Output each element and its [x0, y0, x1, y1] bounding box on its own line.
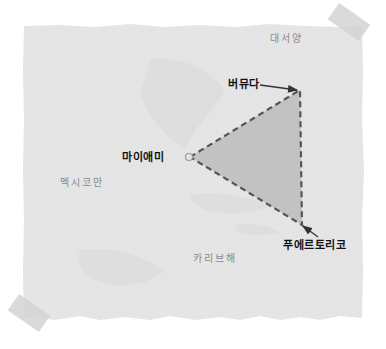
atlantic-ocean-label: 대서양: [270, 34, 303, 44]
bermuda-label: 버뮤다: [228, 79, 260, 90]
bermuda-triangle-map: 대서양 버뮤다 마이애미 멕시코만 푸에르토리코 카리브해: [0, 0, 386, 349]
map-graphic: [0, 0, 386, 349]
miami-label: 마이애미: [122, 152, 164, 163]
puerto-rico-label: 푸에르토리코: [283, 240, 346, 251]
gulf-of-mexico-label: 멕시코만: [60, 178, 104, 188]
circle-marker-icon: [186, 154, 193, 161]
caribbean-sea-label: 카리브해: [193, 254, 237, 264]
